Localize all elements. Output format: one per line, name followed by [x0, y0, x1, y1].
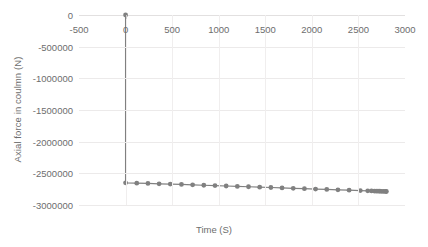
y-axis-tick-label: -2500000	[33, 168, 73, 179]
y-axis-tick-label: 0	[68, 10, 73, 21]
data-point-marker	[347, 188, 352, 193]
gridline-vertical	[126, 15, 127, 205]
data-point-marker	[134, 181, 139, 186]
y-axis-tick-labels: 0-500000-1000000-1500000-2000000-2500000…	[0, 0, 77, 247]
gridline-vertical	[219, 15, 220, 205]
data-point-marker	[246, 184, 251, 189]
data-point-marker	[201, 183, 206, 188]
gridline-vertical	[358, 15, 359, 205]
y-axis-tick-label: -1500000	[33, 105, 73, 116]
gridline-vertical	[312, 15, 313, 205]
data-point-marker	[268, 185, 273, 190]
data-point-marker	[384, 189, 389, 194]
data-point-marker	[336, 187, 341, 192]
gridline-vertical	[265, 15, 266, 205]
x-axis-title: Time (S)	[0, 224, 428, 235]
data-point-marker	[235, 184, 240, 189]
data-point-marker	[257, 185, 262, 190]
data-point-marker	[224, 184, 229, 189]
y-axis-tick-label: -1000000	[33, 73, 73, 84]
data-point-marker	[190, 182, 195, 187]
gridline-horizontal	[79, 205, 405, 206]
y-axis-tick-label: -2000000	[33, 136, 73, 147]
data-point-marker	[302, 186, 307, 191]
data-point-marker	[324, 187, 329, 192]
gridline-vertical	[172, 15, 173, 205]
gridline-horizontal	[79, 173, 405, 174]
series-line	[126, 15, 387, 192]
data-point-marker	[146, 181, 151, 186]
gridline-horizontal	[79, 110, 405, 111]
data-point-marker	[291, 186, 296, 191]
chart-container: Axial force in coulmn (N) 0-500000-10000…	[0, 0, 428, 247]
data-point-marker	[313, 187, 318, 192]
data-point-marker	[213, 183, 218, 188]
y-axis-tick-label: -500000	[38, 41, 73, 52]
gridline-horizontal	[79, 142, 405, 143]
gridline-horizontal	[79, 78, 405, 79]
y-axis-tick-label: -3000000	[33, 200, 73, 211]
data-point-marker	[179, 182, 184, 187]
gridline-horizontal	[79, 47, 405, 48]
data-point-marker	[157, 181, 162, 186]
data-point-marker	[280, 186, 285, 191]
plot-area	[79, 15, 405, 205]
